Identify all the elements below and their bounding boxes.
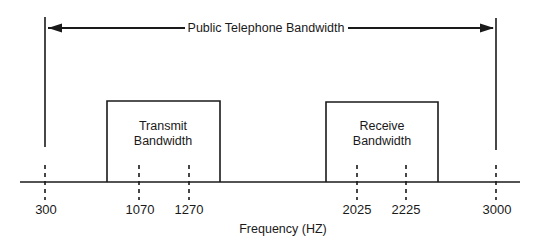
tick-label: 2225 <box>392 202 421 217</box>
tick-label: 2025 <box>343 202 372 217</box>
arrow-left-icon <box>48 24 62 33</box>
transmit-band: Transmit Bandwidth <box>107 101 220 182</box>
tick-label: 1270 <box>175 202 204 217</box>
receive-band-label-2: Bandwidth <box>353 134 411 148</box>
tick-label: 1070 <box>126 202 155 217</box>
bandwidth-diagram: Public Telephone Bandwidth Transmit Band… <box>0 0 538 248</box>
tick-labels: 300 1070 1270 2025 2225 3000 <box>35 202 511 217</box>
tick-label: 3000 <box>483 202 512 217</box>
diagram-title: Public Telephone Bandwidth <box>188 21 345 35</box>
receive-band: Receive Bandwidth <box>326 102 438 182</box>
arrow-right-icon <box>480 24 494 33</box>
axis-label: Frequency (HZ) <box>239 222 327 236</box>
receive-band-label-1: Receive <box>359 119 404 133</box>
transmit-band-label-1: Transmit <box>139 119 188 133</box>
transmit-band-label-2: Bandwidth <box>134 134 192 148</box>
tick-label: 300 <box>35 202 57 217</box>
